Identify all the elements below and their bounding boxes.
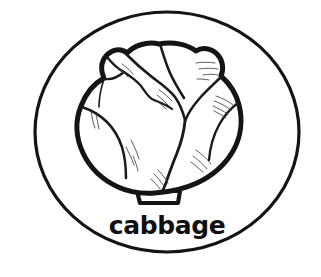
cabbage-illustration-svg: cabbage: [0, 0, 321, 277]
illustration-card: cabbage: [0, 0, 321, 277]
caption-label: cabbage: [109, 211, 225, 240]
